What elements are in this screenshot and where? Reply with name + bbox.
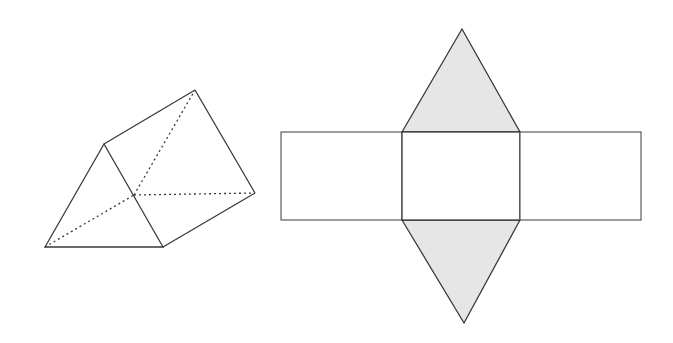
back-right-edge [195,90,255,193]
hidden-edge-base-diagonal [45,195,134,247]
top-ridge-edge [104,90,195,144]
front-triangle-face [45,144,163,247]
net-left-rectangle [281,132,402,220]
bottom-right-edge [163,193,255,247]
net-right-rectangle [520,132,641,220]
hidden-edge-back-base [134,193,255,195]
prism-net [281,29,641,323]
triangular-prism [45,90,255,247]
net-top-triangle [402,29,520,132]
net-bottom-triangle [402,220,520,323]
net-center-rectangle [402,132,520,220]
hidden-edge-back-vertical [134,90,195,195]
diagram-canvas [0,0,673,343]
